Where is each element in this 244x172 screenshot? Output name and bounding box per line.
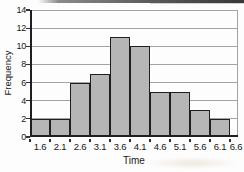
x-tick-mark — [49, 139, 50, 143]
x-tick-mark — [69, 139, 70, 143]
x-tick-mark — [109, 139, 110, 143]
histogram-bar — [190, 110, 210, 137]
histogram-bar — [130, 46, 150, 137]
x-tick-label: 2.1 — [54, 141, 66, 152]
x-tick-label: 6.1 — [214, 141, 226, 152]
histogram-bar — [90, 74, 110, 138]
y-axis-line — [30, 10, 32, 137]
x-tick-mark — [189, 139, 190, 143]
histogram-figure: Frequency 02468101214 1.62.12.63.13.64.1… — [0, 0, 244, 172]
y-tick-label: 8 — [0, 59, 26, 69]
x-tick-label: 4.6 — [154, 141, 166, 152]
histogram-bar — [170, 92, 190, 137]
x-tick-mark — [89, 139, 90, 143]
gridline — [30, 28, 238, 29]
y-tick-label: 6 — [0, 78, 26, 88]
x-tick-label: 5.1 — [174, 141, 186, 152]
histogram-bar — [30, 119, 50, 137]
histogram-bar — [70, 83, 90, 137]
x-tick-mark — [29, 139, 30, 143]
histogram-bar — [150, 92, 170, 137]
x-tick-label: 2.6 — [74, 141, 86, 152]
x-tick-label: 6.6 — [230, 141, 242, 152]
x-tick-mark — [209, 139, 210, 143]
x-tick-label: 3.1 — [94, 141, 106, 152]
plot-area — [30, 10, 238, 137]
x-axis-line — [30, 135, 238, 137]
histogram-bar — [210, 119, 230, 137]
histogram-bar — [50, 119, 70, 137]
x-tick-mark — [129, 139, 130, 143]
y-tick-label: 2 — [0, 114, 26, 124]
x-tick-label: 1.6 — [34, 141, 46, 152]
y-tick-label: 10 — [0, 41, 26, 51]
x-tick-mark — [149, 139, 150, 143]
histogram-bar — [110, 37, 130, 137]
x-axis-title: Time — [123, 155, 145, 166]
y-tick-label: 12 — [0, 23, 26, 33]
y-tick-label: 14 — [0, 5, 26, 15]
x-tick-mark — [169, 139, 170, 143]
y-tick-label: 0 — [0, 132, 26, 142]
scan-artifact-smudge — [145, 157, 240, 169]
y-axis-title: Frequency — [2, 51, 13, 96]
y-tick-label: 4 — [0, 96, 26, 106]
x-tick-label: 3.6 — [114, 141, 126, 152]
scan-artifact-secondary-line — [150, 3, 244, 4]
x-tick-label: 5.6 — [194, 141, 206, 152]
x-tick-label: 4.1 — [134, 141, 146, 152]
gridline — [30, 10, 238, 11]
plot-right-frame — [237, 10, 238, 137]
